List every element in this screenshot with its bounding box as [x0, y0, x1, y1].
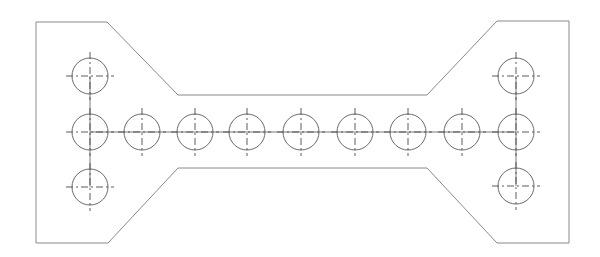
- bolt-holes: [66, 52, 540, 211]
- technical-drawing: [0, 0, 600, 257]
- hole-connection-lines: [90, 76, 516, 187]
